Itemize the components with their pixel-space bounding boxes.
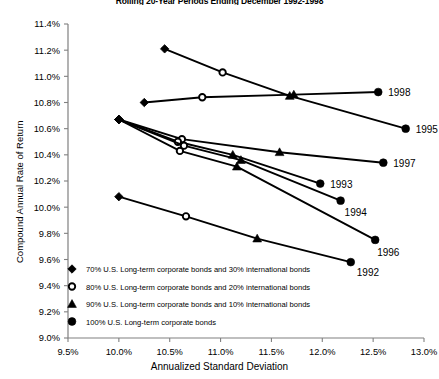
x-tick-label: 11.5% xyxy=(259,347,285,357)
legend-label: 70% U.S. Long-term corporate bonds and 3… xyxy=(86,265,310,274)
marker-open-circle xyxy=(177,148,183,154)
y-axis-tick-labels: 9.0%9.2%9.4%9.6%9.8%10.0%10.2%10.4%10.6%… xyxy=(34,19,60,343)
x-tick-label: 12.0% xyxy=(309,347,335,357)
series-line xyxy=(119,197,351,262)
series-label-1994: 1994 xyxy=(345,207,368,218)
x-tick-label: 10.5% xyxy=(157,347,183,357)
marker-diamond xyxy=(115,193,123,201)
series-line xyxy=(119,120,383,163)
x-tick-label: 13.0% xyxy=(411,347,437,357)
y-tick-label: 10.6% xyxy=(34,124,60,134)
x-tick-label: 11.0% xyxy=(208,347,234,357)
series-1992 xyxy=(115,193,355,267)
y-tick-label: 9.0% xyxy=(39,333,60,343)
marker-triangle xyxy=(68,300,77,308)
y-tick-label: 9.4% xyxy=(39,281,60,291)
marker-filled-circle xyxy=(68,318,76,326)
legend-item-1: 80% U.S. Long-term corporate bonds and 2… xyxy=(69,283,311,292)
series-label-1995: 1995 xyxy=(416,124,439,135)
marker-diamond xyxy=(68,265,76,273)
x-tick-label: 12.5% xyxy=(360,347,386,357)
series-label-1992: 1992 xyxy=(357,267,380,278)
marker-filled-circle xyxy=(371,236,379,244)
marker-open-circle xyxy=(199,94,205,100)
y-tick-label: 10.8% xyxy=(34,98,60,108)
y-tick-label: 10.0% xyxy=(34,203,60,213)
chart-plot-area: 9.0%9.2%9.4%9.6%9.8%10.0%10.2%10.4%10.6%… xyxy=(0,0,439,379)
marker-diamond xyxy=(140,98,148,106)
x-tick-label: 10.0% xyxy=(106,347,132,357)
tick-marks-group xyxy=(64,24,424,342)
series-label-1998: 1998 xyxy=(388,87,411,98)
series-end-labels: 1995199819971993199419961992 xyxy=(330,87,438,278)
marker-filled-circle xyxy=(347,258,355,266)
data-series-group xyxy=(115,45,410,266)
x-tick-label: 9.5% xyxy=(57,347,78,357)
y-tick-label: 9.8% xyxy=(39,229,60,239)
series-1998 xyxy=(140,88,382,107)
marker-filled-circle xyxy=(374,88,382,96)
series-1993 xyxy=(115,115,324,187)
y-tick-label: 9.6% xyxy=(39,255,60,265)
legend: 70% U.S. Long-term corporate bonds and 3… xyxy=(68,265,311,327)
marker-filled-circle xyxy=(316,180,324,188)
legend-item-0: 70% U.S. Long-term corporate bonds and 3… xyxy=(68,265,311,274)
marker-filled-circle xyxy=(337,197,345,205)
x-axis-tick-labels: 9.5%10.0%10.5%11.0%11.5%12.0%12.5%13.0% xyxy=(57,347,437,357)
marker-filled-circle xyxy=(402,125,410,133)
marker-open-circle xyxy=(69,283,75,289)
x-axis-title: Annualized Standard Deviation xyxy=(0,361,439,372)
y-tick-label: 11.2% xyxy=(34,46,60,56)
y-tick-label: 10.2% xyxy=(34,176,60,186)
marker-diamond xyxy=(160,45,168,53)
y-tick-label: 9.2% xyxy=(39,307,60,317)
series-label-1993: 1993 xyxy=(330,179,353,190)
y-tick-label: 10.4% xyxy=(34,150,60,160)
legend-label: 80% U.S. Long-term corporate bonds and 2… xyxy=(86,283,310,292)
y-tick-label: 11.4% xyxy=(34,19,60,29)
legend-item-2: 90% U.S. Long-term corporate bonds and 1… xyxy=(68,300,311,309)
legend-label: 100% U.S. Long-term corporate bonds xyxy=(86,318,216,327)
y-axis-title: Compound Annual Rate of Return xyxy=(14,120,25,263)
series-label-1996: 1996 xyxy=(377,247,400,258)
series-line xyxy=(144,92,378,102)
marker-open-circle xyxy=(183,213,189,219)
legend-item-3: 100% U.S. Long-term corporate bonds xyxy=(68,318,216,327)
marker-diamond xyxy=(115,115,123,123)
legend-label: 90% U.S. Long-term corporate bonds and 1… xyxy=(86,300,310,309)
marker-filled-circle xyxy=(379,159,387,167)
series-label-1997: 1997 xyxy=(393,158,416,169)
marker-open-circle xyxy=(219,69,225,75)
y-tick-label: 11.0% xyxy=(34,72,60,82)
series-1997 xyxy=(115,115,388,166)
series-1995 xyxy=(160,45,409,133)
series-line xyxy=(165,49,406,129)
